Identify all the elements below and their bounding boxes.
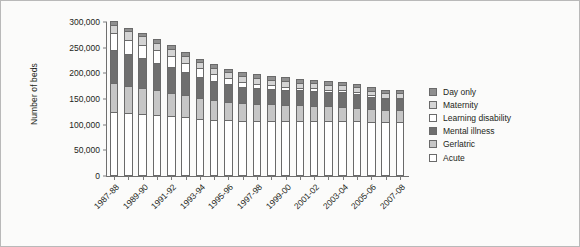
legend-item-learning-disability: Learning disability (429, 111, 511, 124)
legend-item-mental-illness: Mental illness (429, 125, 511, 138)
bar-1994-95 (210, 64, 219, 176)
x-axis-tick-mark (186, 176, 187, 180)
x-axis-tick-label: 1999-00 (263, 182, 292, 211)
bar-segment (324, 106, 333, 120)
bar-segment (296, 90, 305, 105)
bar-1987-88 (110, 21, 119, 176)
x-axis-tick-label: 1989-90 (121, 182, 150, 211)
legend-swatch (429, 127, 437, 135)
bar-segment (210, 74, 219, 81)
x-axis-tick-label: 2005-06 (349, 182, 378, 211)
bar-segment (124, 54, 133, 86)
bar-segment (267, 104, 276, 120)
x-axis-tick-label: 1991-92 (149, 182, 178, 211)
chart-figure: Number of beds 050,000100,000150,000200,… (0, 0, 580, 247)
plot-area: 050,000100,000150,000200,000250,000300,0… (107, 22, 407, 176)
bar-segment (167, 49, 176, 56)
legend-label: Gerlatric (443, 139, 475, 149)
bar-segment (196, 98, 205, 119)
bar-segment (238, 103, 247, 120)
y-axis-tick-mark (103, 99, 107, 100)
bar-segment (138, 88, 147, 114)
bar-segment (281, 90, 290, 105)
bar-1991-92 (167, 45, 176, 176)
bar-1990-91 (153, 39, 162, 176)
bar-segment (310, 106, 319, 121)
bar-segment (253, 88, 262, 104)
bar-segment (324, 92, 333, 106)
bar-segment (153, 50, 162, 62)
bar-segment (181, 72, 190, 95)
x-axis-tick-mark (328, 176, 329, 180)
x-axis-tick-mark (300, 176, 301, 180)
bar-1999-00 (281, 77, 290, 176)
bar-segment (396, 110, 405, 122)
bar-segment (296, 121, 305, 176)
bar-segment (381, 110, 390, 122)
bar-2002-03 (324, 81, 333, 176)
bar-segment (210, 81, 219, 100)
bar-segment (367, 122, 376, 176)
x-axis-tick-mark (143, 176, 144, 180)
bar-segment (138, 36, 147, 44)
legend-item-acute: Acute (429, 151, 511, 164)
bar-segment (396, 99, 405, 110)
bar-segment (224, 84, 233, 101)
bar-1988-89 (124, 28, 133, 176)
bar-segment (338, 121, 347, 176)
bar-segment (167, 93, 176, 116)
bar-segment (296, 105, 305, 120)
bar-segment (253, 121, 262, 176)
legend-swatch (429, 154, 437, 162)
bar-segment (224, 102, 233, 120)
bar-segment (324, 121, 333, 176)
y-axis-tick-mark (103, 150, 107, 151)
x-axis-tick-mark (386, 176, 387, 180)
bar-segment (338, 107, 347, 121)
bar-segment (181, 117, 190, 176)
bar-segment (124, 86, 133, 113)
x-axis-tick-label: 1995-96 (206, 182, 235, 211)
bar-1997-98 (253, 74, 262, 176)
y-axis-tick-label: 200,000 (69, 68, 107, 78)
bar-segment (138, 45, 147, 59)
x-axis-tick-label: 2007-08 (378, 182, 407, 211)
bar-segment (196, 68, 205, 77)
bar-1992-93 (181, 52, 190, 176)
x-axis-tick-mark (400, 176, 401, 180)
bar-segment (238, 87, 247, 103)
x-axis-tick-label: 2001-02 (292, 182, 321, 211)
bar-2006-07 (381, 90, 390, 176)
bar-segment (381, 122, 390, 176)
bar-segment (267, 121, 276, 176)
bar-segment (381, 99, 390, 110)
bar-segment (310, 121, 319, 176)
y-axis-tick-label: 100,000 (69, 120, 107, 130)
bar-segment (181, 95, 190, 117)
y-axis-tick-label: 150,000 (69, 94, 107, 104)
bar-segment (238, 121, 247, 176)
legend-swatch (429, 88, 437, 96)
bar-segment (367, 97, 376, 109)
x-axis-tick-mark (257, 176, 258, 180)
legend-label: Acute (443, 153, 465, 163)
bar-1989-90 (138, 33, 147, 176)
bar-2005-06 (367, 87, 376, 176)
x-axis-tick-label: 1987-88 (92, 182, 121, 211)
x-axis-tick-mark (214, 176, 215, 180)
bar-segment (210, 120, 219, 176)
x-axis-tick-mark (371, 176, 372, 180)
bar-segment (167, 56, 176, 67)
bar-segment (124, 40, 133, 55)
bar-segment (196, 77, 205, 98)
bar-segment (110, 112, 119, 176)
x-axis-tick-mark (200, 176, 201, 180)
x-axis-tick-mark (157, 176, 158, 180)
bar-segment (167, 116, 176, 176)
y-axis-tick-label: 250,000 (69, 43, 107, 53)
y-axis-tick-label: 300,000 (69, 17, 107, 27)
y-axis-title-label: Number of beds (29, 19, 39, 169)
y-axis-tick-mark (103, 176, 107, 177)
bar-segment (353, 121, 362, 176)
legend-swatch (429, 140, 437, 148)
